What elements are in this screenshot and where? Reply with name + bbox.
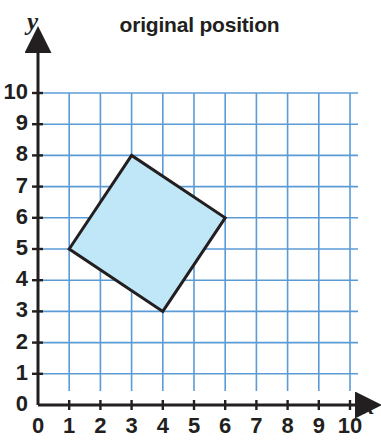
original-position-square <box>69 155 225 311</box>
y-tick-label: 10 <box>0 79 28 105</box>
y-tick-label: 4 <box>0 266 28 292</box>
y-tick-label: 7 <box>0 173 28 199</box>
graph-figure: original position y x 012345678910 01234… <box>0 0 381 442</box>
y-tick-label: 5 <box>0 235 28 261</box>
y-tick-label: 6 <box>0 204 28 230</box>
x-tick-label: 10 <box>330 413 370 439</box>
y-tick-label: 2 <box>0 329 28 355</box>
y-tick-label: 9 <box>0 110 28 136</box>
y-tick-label: 1 <box>0 360 28 386</box>
plot-shapes <box>69 155 225 311</box>
y-tick-label: 3 <box>0 297 28 323</box>
y-tick-label: 8 <box>0 141 28 167</box>
coordinate-plane <box>0 0 381 442</box>
